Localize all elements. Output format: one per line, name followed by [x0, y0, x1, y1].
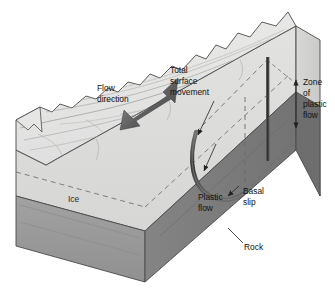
zone-of-plastic-flow-line-4: flow — [303, 110, 319, 120]
zone-of-plastic-flow-line-1: Zone — [303, 77, 322, 87]
total-surface-movement-line-3: movement — [170, 87, 210, 97]
plastic-flow-line-1: Plastic — [198, 192, 223, 202]
flow-direction-line-1: Flow — [97, 83, 116, 93]
label-basal-slip: Basal slip — [243, 186, 264, 207]
zone-of-plastic-flow-line-2: of — [303, 88, 311, 98]
reference-column-bar — [266, 57, 269, 161]
zone-of-plastic-flow-line-3: plastic — [303, 99, 327, 109]
label-rock: Rock — [244, 242, 264, 252]
label-ice: Ice — [68, 194, 80, 204]
leader-rock — [228, 228, 243, 243]
total-surface-movement-line-1: Total — [170, 65, 188, 75]
vertical-bar-shape — [266, 57, 269, 161]
basal-slip-line-1: Basal — [243, 186, 264, 196]
ice-label-text: Ice — [68, 194, 80, 204]
total-surface-movement-line-2: surface — [170, 76, 198, 86]
diagram-canvas: Flow direction Total surface movement Zo… — [0, 0, 335, 308]
basal-slip-line-2: slip — [243, 197, 256, 207]
label-zone-of-plastic-flow: Zone of plastic flow — [303, 77, 327, 120]
glacier-flow-diagram: Flow direction Total surface movement Zo… — [0, 0, 335, 308]
rock-label-text: Rock — [244, 242, 264, 252]
plastic-flow-line-2: flow — [198, 203, 214, 213]
flow-direction-line-2: direction — [97, 94, 129, 104]
